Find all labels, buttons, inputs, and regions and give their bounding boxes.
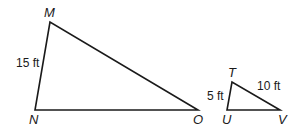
triangle-mno xyxy=(35,22,198,110)
vertex-label-n: N xyxy=(29,112,39,127)
vertex-label-v: V xyxy=(278,112,288,127)
vertex-label-o: O xyxy=(193,112,203,127)
side-label-mn: 15 ft xyxy=(16,56,40,70)
similar-triangles-diagram: M N O 15 ft T U V 5 ft 10 ft xyxy=(0,0,301,132)
vertex-label-t: T xyxy=(228,65,237,80)
diagram-canvas: M N O 15 ft T U V 5 ft 10 ft xyxy=(0,0,301,132)
side-label-tv: 10 ft xyxy=(257,79,281,93)
side-label-tu: 5 ft xyxy=(207,89,224,103)
vertex-label-m: M xyxy=(44,5,55,20)
vertex-label-u: U xyxy=(222,112,232,127)
